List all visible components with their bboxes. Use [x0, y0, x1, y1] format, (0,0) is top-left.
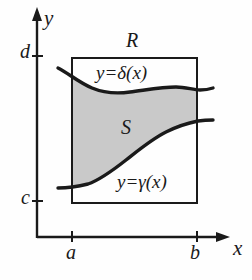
y-axis-arrowhead [32, 7, 42, 21]
region-diagram: y x d c a b R S y=δ(x) y=γ(x) [0, 0, 252, 280]
x-tick-label-b: b [190, 242, 200, 262]
x-axis-label: x [233, 238, 242, 259]
x-axis-arrowhead [216, 232, 230, 242]
y-tick-label-c: c [21, 187, 30, 207]
lower-curve-label: y=γ(x) [117, 172, 167, 191]
y-tick-label-d: d [20, 41, 30, 61]
upper-curve-label: y=δ(x) [96, 63, 147, 82]
y-axis-label: y [44, 8, 53, 29]
region-label-s: S [121, 117, 131, 137]
x-tick-label-a: a [66, 242, 76, 262]
rectangle-label-r: R [126, 30, 138, 50]
